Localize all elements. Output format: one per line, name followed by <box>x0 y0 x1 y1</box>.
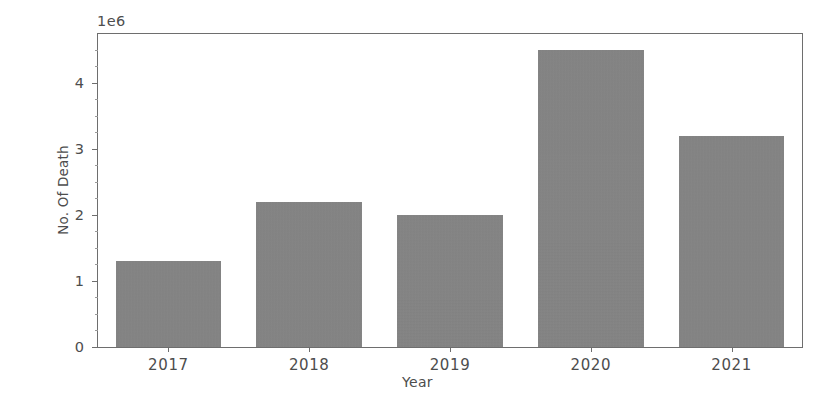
y-axis-tick-label: 0 <box>75 339 84 355</box>
y-axis-minor-tick <box>95 314 99 315</box>
y-axis-minor-tick <box>95 330 99 331</box>
plot-area: 01234 20172018201920202021 <box>97 33 803 348</box>
y-axis-minor-tick <box>95 297 99 298</box>
y-axis-minor-tick <box>95 182 99 183</box>
x-axis-tick-label: 2019 <box>430 356 471 374</box>
x-axis-tick <box>168 347 169 352</box>
bar-chart-figure: 1e6 No. Of Death 01234 20172018201920202… <box>0 0 835 401</box>
bar <box>116 261 222 347</box>
y-axis-minor-tick <box>95 99 99 100</box>
y-axis-tick <box>92 83 98 84</box>
y-axis-title: No. Of Death <box>55 145 71 235</box>
x-axis-tick <box>309 347 310 352</box>
x-axis-tick-label: 2018 <box>289 356 330 374</box>
bar <box>256 202 362 347</box>
bar <box>538 50 644 347</box>
y-axis-tick-label: 4 <box>75 75 84 91</box>
x-axis-tick-label: 2021 <box>711 356 752 374</box>
y-axis-minor-tick <box>95 248 99 249</box>
y-axis-minor-tick <box>95 264 99 265</box>
x-axis-tick-label: 2020 <box>571 356 612 374</box>
y-axis-minor-tick <box>95 165 99 166</box>
x-axis-tick <box>732 347 733 352</box>
y-axis-minor-tick <box>95 132 99 133</box>
bar <box>397 215 503 347</box>
y-axis-tick <box>92 215 98 216</box>
bar <box>679 136 785 347</box>
y-axis-tick-label: 3 <box>75 141 84 157</box>
x-axis-tick-label: 2017 <box>148 356 189 374</box>
x-axis-title: Year <box>0 374 835 390</box>
x-axis-tick <box>591 347 592 352</box>
x-axis-tick <box>450 347 451 352</box>
y-axis-minor-tick <box>95 116 99 117</box>
y-axis-offset-label: 1e6 <box>97 13 126 29</box>
y-axis-minor-tick <box>95 66 99 67</box>
y-axis-tick <box>92 149 98 150</box>
y-axis-minor-tick <box>95 231 99 232</box>
y-axis-tick <box>92 281 98 282</box>
y-axis-minor-tick <box>95 50 99 51</box>
y-axis-tick-label: 1 <box>75 273 84 289</box>
y-axis-tick <box>92 347 98 348</box>
y-axis-minor-tick <box>95 198 99 199</box>
y-axis-tick-label: 2 <box>75 207 84 223</box>
